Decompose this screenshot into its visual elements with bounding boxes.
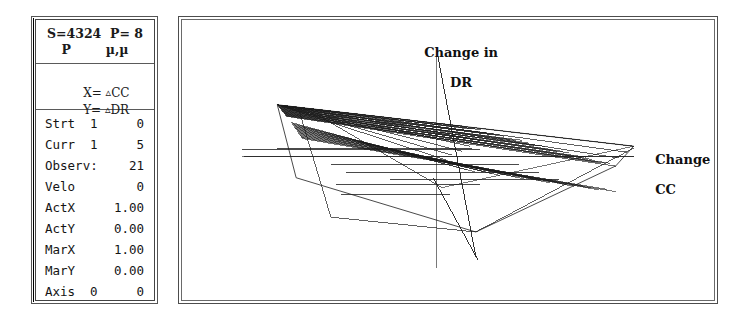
stat-secondary-value: 0 — [90, 284, 98, 299]
fan-segment — [282, 111, 551, 149]
stat-value: 0 — [136, 179, 144, 194]
axis-assignment-section: X= ▵CC Y= ▵DR — [36, 64, 154, 110]
steep-line-b — [433, 178, 478, 260]
y-axis-label-line1: Change in — [424, 45, 498, 60]
stat-label: Strt — [45, 116, 75, 131]
stat-label: Axis — [45, 284, 75, 299]
status-header-section: S=4324 P= 8 P µ,µ — [36, 20, 154, 64]
stat-value: 0 — [136, 284, 144, 299]
plot-canvas[interactable]: Change in DR Change in CC — [181, 19, 715, 301]
stat-value: 21 — [129, 158, 144, 173]
stat-row[interactable]: MarY0.00 — [36, 263, 154, 284]
stat-label: ActX — [45, 200, 75, 215]
stat-secondary-value: 1 — [90, 116, 98, 131]
status-panel-inner: S=4324 P= 8 P µ,µ X= ▵CC Y= ▵DR Strt10Cu… — [35, 19, 155, 301]
stat-value: 0.00 — [114, 263, 144, 278]
stat-secondary-value: 1 — [90, 137, 98, 152]
hull-connector-left — [299, 111, 331, 217]
trajectory-outline — [277, 105, 633, 232]
x-axis-label-line2: CC — [655, 182, 676, 197]
stat-label: ActY — [45, 221, 75, 236]
stat-row[interactable]: ActY0.00 — [36, 221, 154, 242]
session-summary-line: S=4324 P= 8 — [36, 26, 154, 41]
stat-label: Curr — [45, 137, 75, 152]
stat-value: 1.00 — [114, 242, 144, 257]
stat-row[interactable]: MarX1.00 — [36, 242, 154, 263]
stat-value: 0.00 — [114, 221, 144, 236]
x-axis-label: Change in CC — [619, 137, 715, 212]
hull-connector-right — [476, 148, 634, 232]
stat-row[interactable]: ActX1.00 — [36, 200, 154, 221]
stat-value: 1.00 — [114, 200, 144, 215]
stat-label: Observ: — [45, 158, 98, 173]
stat-row[interactable]: Curr15 — [36, 137, 154, 158]
stat-label: MarY — [45, 263, 75, 278]
stat-label: MarX — [45, 242, 75, 257]
stat-row[interactable]: Observ:21 — [36, 158, 154, 179]
stat-row[interactable]: Velo0 — [36, 179, 154, 200]
status-panel: S=4324 P= 8 P µ,µ X= ▵CC Y= ▵DR Strt10Cu… — [31, 16, 158, 304]
plot-panel: Change in DR Change in CC — [178, 16, 718, 304]
hull-connector-bottom — [331, 217, 476, 232]
stat-value: 5 — [136, 137, 144, 152]
stat-value: 0 — [136, 116, 144, 131]
stat-label: Velo — [45, 179, 75, 194]
parameter-summary-line: P µ,µ — [36, 42, 154, 57]
stat-row[interactable]: Strt10 — [36, 116, 154, 137]
stat-row[interactable]: Axis00 — [36, 284, 154, 305]
application-window: S=4324 P= 8 P µ,µ X= ▵CC Y= ▵DR Strt10Cu… — [0, 0, 741, 327]
statistics-section: Strt10Curr15Observ:21Velo0ActX1.00ActY0.… — [36, 110, 154, 300]
y-axis-label-line2: DR — [450, 75, 472, 90]
fan-ray — [277, 105, 618, 158]
y-axis-label: Change in DR — [378, 30, 508, 105]
x-axis-label-line1: Change in — [655, 152, 715, 167]
